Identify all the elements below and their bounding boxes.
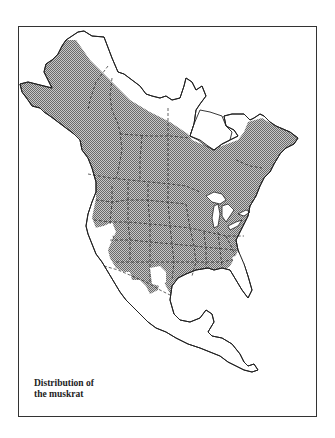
caption-line-2: the muskrat [34, 389, 94, 400]
map-caption: Distribution of the muskrat [34, 378, 94, 400]
north-america-map [0, 0, 335, 438]
muskrat-range [20, 40, 300, 296]
caption-line-1: Distribution of [34, 378, 94, 389]
